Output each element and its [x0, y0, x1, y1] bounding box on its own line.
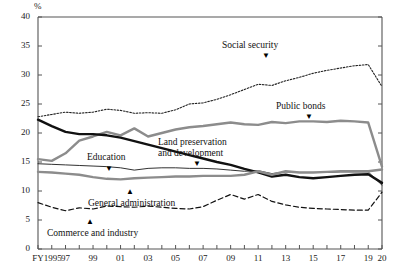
- series-label-land-preservation-line1: Land preservation: [158, 137, 227, 147]
- x-tick-label-1997: 97: [57, 253, 75, 263]
- y-tick-label-10: 10: [8, 185, 30, 195]
- pointer-commerce-and-industry-icon: ▲: [86, 218, 94, 226]
- pointer-land-preservation-icon: ▼: [193, 160, 201, 168]
- x-tick-label-2020: 20: [373, 253, 391, 263]
- pointer-general-administration-icon: ▲: [126, 188, 134, 196]
- series-label-education: Education: [87, 152, 126, 163]
- y-tick-label-5: 5: [8, 214, 30, 224]
- y-tick-label-25: 25: [8, 98, 30, 108]
- x-tick-label-2017: 17: [332, 253, 350, 263]
- pointer-education-icon: ▼: [105, 165, 113, 173]
- series-label-social-security: Social security: [222, 40, 278, 51]
- series-label-commerce-and-industry: Commerce and industry: [47, 228, 138, 239]
- x-tick-label-2013: 13: [277, 253, 295, 263]
- y-tick-label-40: 40: [8, 11, 30, 21]
- x-tick-label-2009: 09: [222, 253, 240, 263]
- y-tick-label-0: 0: [8, 243, 30, 253]
- series-line-education: [38, 164, 382, 185]
- line-chart: % 40 35 30 25 20 15 10 5 0 FY19959799010…: [0, 0, 407, 279]
- series-line-social-security: [38, 65, 382, 117]
- y-tick-label-15: 15: [8, 156, 30, 166]
- series-label-general-administration: General administration: [88, 198, 175, 209]
- x-tick-label-2011: 11: [249, 253, 267, 263]
- x-tick-label-2003: 03: [139, 253, 157, 263]
- y-tick-label-20: 20: [8, 127, 30, 137]
- x-tick-label-1999: 99: [84, 253, 102, 263]
- x-tick-label-2007: 07: [194, 253, 212, 263]
- x-tick-label-2015: 15: [304, 253, 322, 263]
- pointer-social-security-icon: ▼: [262, 52, 270, 60]
- pointer-public-bonds-icon: ▼: [305, 113, 313, 121]
- y-tick-label-35: 35: [8, 40, 30, 50]
- y-tick-label-30: 30: [8, 69, 30, 79]
- x-tick-label-2005: 05: [167, 253, 185, 263]
- series-label-public-bonds: Public bonds: [276, 101, 325, 112]
- x-tick-label-2001: 01: [112, 253, 130, 263]
- series-label-land-preservation: Land preservationand development: [158, 137, 227, 158]
- series-label-land-preservation-line2: and development: [158, 148, 223, 158]
